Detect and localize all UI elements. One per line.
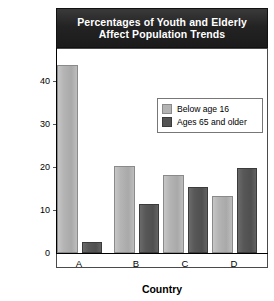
y-tick-label-40: 40 <box>30 77 50 86</box>
chart-title-line-1: Percentages of Youth and Elderly <box>77 16 247 28</box>
legend-item-below-age-16: Below age 16 <box>162 103 258 115</box>
y-tick-label-0: 0 <box>30 249 50 258</box>
y-tick-label-10: 10 <box>30 206 50 215</box>
legend-label-below-age-16: Below age 16 <box>177 104 229 114</box>
legend-swatch-ages-65-and-older <box>162 117 172 127</box>
chart-title: Percentages of Youth and Elderly Affect … <box>73 16 251 41</box>
bar-ages-65-and-older-B <box>139 204 159 253</box>
bar-ages-65-and-older-C <box>188 187 208 253</box>
x-axis-title: Country <box>56 283 268 295</box>
x-axis-line <box>56 253 268 254</box>
bar-below-age-16-D <box>212 196 233 253</box>
bar-below-age-16-C <box>163 175 184 253</box>
bar-below-age-16-A <box>57 65 78 253</box>
chart-legend: Below age 16 Ages 65 and older <box>157 98 263 133</box>
legend-item-ages-65-and-older: Ages 65 and older <box>162 116 258 128</box>
plot-area <box>56 48 268 268</box>
x-tick-label-D: D <box>222 258 246 269</box>
legend-swatch-below-age-16 <box>162 104 172 114</box>
x-tick-label-C: C <box>173 258 197 269</box>
bar-ages-65-and-older-A <box>82 242 102 253</box>
legend-label-ages-65-and-older: Ages 65 and older <box>177 117 247 127</box>
x-tick-label-B: B <box>124 258 148 269</box>
x-tick-label-A: A <box>67 258 91 269</box>
chart-title-line-2: Affect Population Trends <box>99 28 226 40</box>
bar-chart-figure: Percentages of Youth and Elderly Affect … <box>0 0 274 301</box>
bar-ages-65-and-older-D <box>237 168 257 253</box>
bar-below-age-16-B <box>114 166 135 253</box>
y-tick-label-20: 20 <box>30 163 50 172</box>
chart-title-banner: Percentages of Youth and Elderly Affect … <box>56 8 268 48</box>
y-tick-label-30: 30 <box>30 120 50 129</box>
